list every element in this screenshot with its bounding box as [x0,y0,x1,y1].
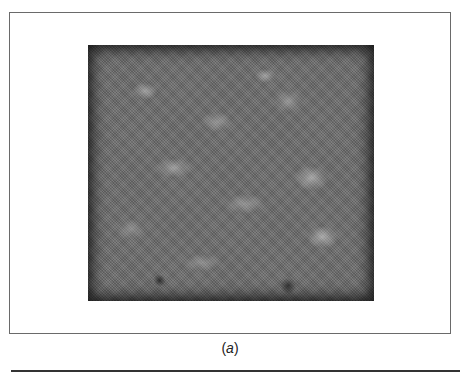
panel-letter: a [226,340,234,356]
micrograph-image [88,45,374,301]
figure-caption: (a) [0,340,460,356]
bottom-rule [11,370,460,372]
